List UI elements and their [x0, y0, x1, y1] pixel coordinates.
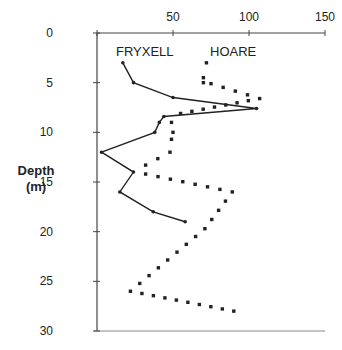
- hoare-dot: [218, 188, 221, 191]
- hoare-dot: [201, 108, 204, 111]
- hoare-dot: [163, 296, 166, 299]
- fryxell-point: [118, 190, 122, 194]
- hoare-dot: [138, 282, 141, 285]
- x-tick-label: 100: [239, 10, 259, 24]
- hoare-dot: [194, 235, 197, 238]
- hoare-dot: [247, 99, 250, 102]
- hoare-dot: [175, 298, 178, 301]
- y-tick-label: 25: [40, 274, 54, 288]
- hoare-dot: [157, 266, 160, 269]
- fryxell-point: [171, 96, 175, 100]
- fryxell-point: [132, 170, 136, 174]
- hoare-dot: [185, 243, 188, 246]
- y-tick-label: 5: [46, 76, 53, 90]
- hoare-dot: [221, 86, 224, 89]
- hoare-dot: [202, 76, 205, 79]
- hoare-dot: [169, 177, 172, 180]
- fryxell-point: [153, 131, 157, 135]
- hoare-dot: [152, 294, 155, 297]
- hoare-dot: [193, 183, 196, 186]
- y-tick-label: 30: [40, 324, 54, 338]
- hoare-dot: [156, 175, 159, 178]
- fryxell-point: [121, 61, 125, 65]
- hoare-dot: [217, 209, 220, 212]
- fryxell-point: [158, 121, 162, 125]
- fryxell-point: [183, 220, 187, 224]
- hoare-dot: [234, 89, 237, 92]
- fryxell-point: [255, 107, 259, 111]
- hoare-dot: [190, 110, 193, 113]
- y-tick-label: 20: [40, 225, 54, 239]
- hoare-dot: [144, 172, 147, 175]
- fryxell-line: [102, 63, 257, 222]
- axes: 50100150051015202530: [40, 10, 336, 338]
- hoare-dot: [209, 305, 212, 308]
- hoare-dot: [140, 292, 143, 295]
- series-labels: FRYXELLHOARE: [116, 44, 257, 59]
- hoare-dot: [224, 103, 227, 106]
- hoare-dot: [213, 105, 216, 108]
- hoare-dot: [186, 301, 189, 304]
- series-group: [100, 61, 262, 313]
- hoare-dot: [232, 309, 235, 312]
- fryxell-point: [162, 115, 166, 119]
- hoare-dot: [235, 101, 238, 104]
- x-tick-label: 150: [315, 10, 335, 24]
- hoare-dot: [224, 199, 227, 202]
- hoare-dot: [258, 97, 261, 100]
- hoare-dot: [206, 185, 209, 188]
- hoare-label: HOARE: [210, 44, 257, 59]
- hoare-dot: [205, 61, 208, 64]
- hoare-dot: [179, 112, 182, 115]
- hoare-dot: [209, 82, 212, 85]
- fryxell-label: FRYXELL: [116, 44, 174, 59]
- fryxell-point: [100, 150, 104, 154]
- hoare-dot: [181, 180, 184, 183]
- hoare-dot: [231, 190, 234, 193]
- hoare-dot: [156, 157, 159, 160]
- hoare-dot: [168, 151, 171, 154]
- y-axis-label-line-2: (m): [10, 179, 62, 195]
- hoare-dot: [147, 274, 150, 277]
- y-axis-label-line-1: Depth: [10, 163, 62, 179]
- hoare-dot: [198, 303, 201, 306]
- hoare-dot: [166, 258, 169, 261]
- x-tick-label: 50: [166, 10, 180, 24]
- hoare-dot: [246, 93, 249, 96]
- fryxell-point: [132, 81, 136, 85]
- hoare-dot: [170, 138, 173, 141]
- hoare-dot: [202, 81, 205, 84]
- hoare-dot: [144, 163, 147, 166]
- hoare-dot: [129, 290, 132, 293]
- hoare-dot: [171, 131, 174, 134]
- y-tick-label: 10: [40, 125, 54, 139]
- hoare-dot: [221, 307, 224, 310]
- hoare-dot: [210, 218, 213, 221]
- y-axis-label: Depth (m): [10, 163, 62, 195]
- hoare-dot: [203, 227, 206, 230]
- fryxell-point: [151, 210, 155, 214]
- hoare-dot: [175, 250, 178, 253]
- hoare-dot: [170, 121, 173, 124]
- y-tick-label: 0: [46, 26, 53, 40]
